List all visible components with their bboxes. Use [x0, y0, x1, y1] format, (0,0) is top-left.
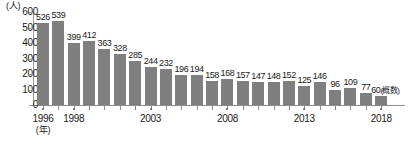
- bar: [37, 23, 49, 105]
- bar: [98, 49, 110, 105]
- x-axis-tick-mark: [274, 106, 275, 110]
- x-axis-tick-label: 2018: [365, 113, 397, 124]
- bar: [375, 96, 387, 105]
- x-axis-tick-label: 2013: [288, 113, 320, 124]
- bar: [283, 81, 295, 105]
- x-axis-tick-mark: [289, 106, 290, 110]
- bar: [175, 75, 187, 105]
- bar: [145, 67, 157, 105]
- x-axis-tick-mark: [135, 106, 136, 110]
- x-axis-tick-mark: [335, 106, 336, 110]
- x-axis-tick-dot: [73, 108, 75, 110]
- plot-area: 5265393994123633282852442321961941581681…: [33, 12, 405, 105]
- bar: [252, 82, 264, 105]
- x-axis-tick-mark: [320, 106, 321, 110]
- bar: [360, 93, 372, 105]
- x-axis-tick-mark: [258, 106, 259, 110]
- x-axis-tick-mark: [58, 106, 59, 110]
- bar-chart: (人) 6005004003002001000 5265393994123633…: [0, 0, 416, 147]
- y-axis-tick-mark: [29, 105, 33, 106]
- x-axis-tick-mark: [243, 106, 244, 110]
- x-axis-tick-mark: [120, 106, 121, 110]
- x-axis-tick-mark: [366, 106, 367, 110]
- bar: [68, 43, 80, 105]
- x-axis-tick-dot: [150, 108, 152, 110]
- bar: [298, 86, 310, 105]
- bar: [206, 81, 218, 105]
- x-axis-tick-mark: [89, 106, 90, 110]
- x-axis-tick-label: 2003: [135, 113, 167, 124]
- bar-value-label: 539: [47, 11, 69, 20]
- x-axis-tick-mark: [212, 106, 213, 110]
- bar: [129, 61, 141, 105]
- x-axis-tick-label: 2008: [211, 113, 243, 124]
- bar: [237, 81, 249, 105]
- bar: [114, 54, 126, 105]
- bar: [268, 82, 280, 105]
- bar-value-label: 60(概数): [371, 86, 415, 95]
- bar: [160, 69, 172, 105]
- x-axis-unit-label: (年): [27, 125, 59, 135]
- bar-annotation: (概数): [380, 86, 399, 95]
- x-axis-tick-label: 1998: [58, 113, 90, 124]
- bar: [221, 79, 233, 105]
- x-axis-tick-mark: [350, 106, 351, 110]
- x-axis-tick-mark: [104, 106, 105, 110]
- x-axis-tick-mark: [197, 106, 198, 110]
- x-axis-tick-label: 1996: [27, 113, 59, 124]
- bar: [329, 90, 341, 105]
- x-axis-tick-mark: [181, 106, 182, 110]
- x-axis-tick-dot: [42, 108, 44, 110]
- x-axis-tick-mark: [166, 106, 167, 110]
- bar: [83, 41, 95, 105]
